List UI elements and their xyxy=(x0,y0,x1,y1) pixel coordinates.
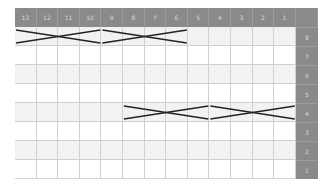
chart-grid: 1312111098765432187654321 xyxy=(15,8,318,181)
crossing-lines xyxy=(15,8,318,181)
